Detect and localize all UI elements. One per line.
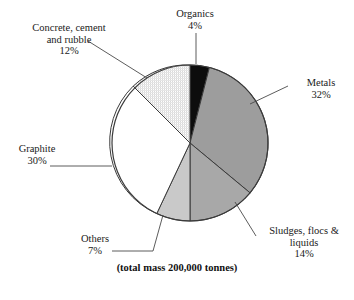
slice-label-sludges-name-line2: liquids [258,237,350,249]
slice-label-metals: Metals 32% [292,77,350,100]
slice-label-others-name: Others [66,233,124,245]
slice-label-sludges-name-line1: Sludges, flocs & [258,225,350,237]
slice-label-others: Others 7% [66,233,124,256]
leader-line-sludges [235,202,256,236]
slice-label-concrete-name-line1: Concrete, cement [8,22,130,34]
slice-label-concrete-name-line2: and rubble [8,34,130,46]
slice-label-graphite: Graphite 30% [4,143,70,166]
leader-line-metals [250,86,288,104]
slice-label-organics-percent: 4% [152,20,238,32]
slice-label-metals-name: Metals [292,77,350,89]
pie-chart-figure: Organics 4% Concrete, cement and rubble … [0,0,354,300]
slice-label-concrete-percent: 12% [8,45,130,57]
slice-label-others-percent: 7% [66,245,124,257]
slice-label-sludges: Sludges, flocs & liquids 14% [258,225,350,260]
slice-label-graphite-percent: 30% [4,155,70,167]
slice-label-metals-percent: 32% [292,89,350,101]
slice-label-sludges-percent: 14% [258,248,350,260]
slice-label-concrete: Concrete, cement and rubble 12% [8,22,130,57]
chart-caption: (total mass 200,000 tonnes) [0,262,354,273]
slice-label-organics: Organics 4% [152,8,238,31]
pie-slices [110,65,268,221]
slice-label-organics-name: Organics [152,8,238,20]
slice-label-graphite-name: Graphite [4,143,70,155]
